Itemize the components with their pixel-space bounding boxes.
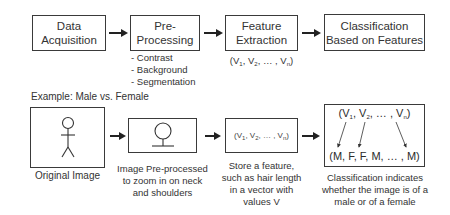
preprocessed-caption: Image Pre-processed to zoom in on neck a… (115, 163, 210, 199)
arrow-right-icon (302, 28, 321, 38)
arrow-right-icon (204, 28, 223, 38)
step-label: Extraction (236, 33, 287, 47)
stick-figure-icon (53, 115, 83, 160)
example-title: Example: Male vs. Female (31, 91, 149, 103)
step-label: Processing (137, 33, 194, 47)
step-label: Data (41, 19, 97, 33)
step-data-acquisition: DataAcquisition (32, 15, 106, 51)
zoomed-head-icon (143, 119, 183, 152)
step-label: Based on Features (326, 33, 423, 47)
classification-output: (M, F, F, M, … , M) (325, 150, 424, 162)
step-classification: ClassificationBased on Features (324, 14, 425, 51)
feature-caption: Store a feature, such as hair length in … (214, 160, 309, 208)
step-label: Pre- (137, 19, 194, 33)
classification-caption: Classification indicates whether the ima… (315, 172, 435, 208)
step-label: Acquisition (41, 33, 97, 47)
preprocessed-image-box (128, 118, 197, 153)
preprocessing-item: - Background (131, 64, 195, 76)
arrow-right-icon (110, 131, 126, 141)
classification-box: (V1, V2, … , Vn) (M, F, F, M, … , M) (324, 104, 425, 167)
step-label: Classification (326, 19, 423, 33)
preprocessing-list: - Contrast - Background - Segmentation (131, 52, 195, 88)
original-image-box (30, 107, 105, 168)
step-pre-processing: Pre-Processing (130, 15, 200, 51)
arrow-right-icon (205, 131, 221, 141)
preprocessing-item: - Contrast (131, 52, 195, 64)
arrow-right-icon (109, 28, 128, 38)
step-label: Feature (236, 19, 287, 33)
feature-vector-text: (V1, V2, … , Vn) (234, 131, 289, 141)
arrow-right-icon (302, 131, 320, 141)
original-image-caption: Original Image (20, 170, 115, 182)
preprocessing-item: - Segmentation (131, 76, 195, 88)
feature-vector-label: (V1, V2, … , Vn) (225, 55, 298, 70)
feature-vector-box: (V1, V2, … , Vn) (225, 118, 298, 153)
step-feature-extraction: FeatureExtraction (225, 15, 298, 51)
